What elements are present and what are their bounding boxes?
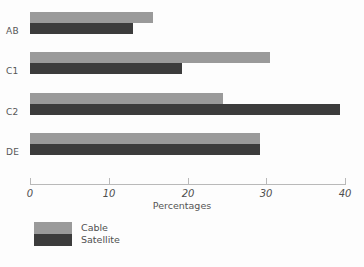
legend-label-satellite: Satellite <box>81 234 120 246</box>
x-tick-0 <box>30 178 31 185</box>
x-tick-label-0: 0 <box>27 188 33 199</box>
x-tick-label-40: 40 <box>339 188 352 199</box>
x-tick-label-30: 30 <box>260 188 273 199</box>
category-label-de: DE <box>6 147 28 157</box>
plot-area <box>30 8 345 184</box>
bar-chart: AB C1 C2 DE 0 10 20 30 40 Percentages Ca… <box>0 0 364 267</box>
bar-satellite-de[interactable] <box>30 144 260 155</box>
x-tick-label-10: 10 <box>103 188 116 199</box>
x-tick-label-20: 20 <box>182 188 195 199</box>
bar-cable-c2[interactable] <box>30 93 223 104</box>
bar-cable-c1[interactable] <box>30 52 270 63</box>
legend-swatch-satellite-icon <box>34 234 72 246</box>
x-axis-title: Percentages <box>0 200 364 211</box>
category-label-c2: C2 <box>6 107 28 117</box>
legend-label-cable: Cable <box>81 222 108 234</box>
legend-swatch-cable-icon <box>34 222 72 234</box>
bar-satellite-c1[interactable] <box>30 63 182 74</box>
category-label-c1: C1 <box>6 66 28 76</box>
x-tick-40 <box>345 178 346 185</box>
bar-satellite-ab[interactable] <box>30 23 133 34</box>
x-tick-20 <box>188 178 189 185</box>
category-label-ab: AB <box>6 26 28 36</box>
x-tick-30 <box>266 178 267 185</box>
bar-cable-de[interactable] <box>30 133 260 144</box>
bar-cable-ab[interactable] <box>30 12 153 23</box>
x-tick-10 <box>109 178 110 185</box>
bar-satellite-c2[interactable] <box>30 104 340 115</box>
